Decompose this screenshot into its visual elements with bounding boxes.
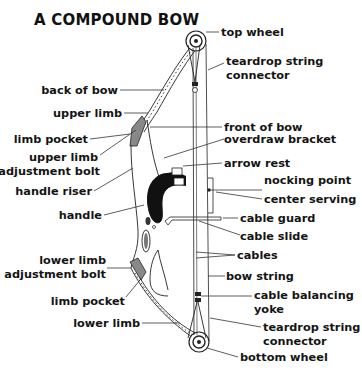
label-limb-pocket-upper: limb pocket	[14, 133, 89, 146]
lower-limb-pocket	[130, 258, 146, 280]
label-upper-bolt-2: adjustment bolt	[0, 165, 101, 178]
label-teardrop-top: teardrop string	[226, 55, 323, 68]
label-teardrop-bottom: teardrop string	[263, 321, 360, 334]
label-upper-limb: upper limb	[53, 107, 122, 120]
bow-string	[206, 44, 209, 341]
label-handle-riser: handle riser	[15, 185, 92, 198]
label-cable-guard: cable guard	[240, 212, 315, 225]
label-upper-bolt: upper limb	[29, 151, 98, 164]
label-arrow-rest: arrow rest	[224, 157, 291, 170]
cable-balancing-yoke	[195, 292, 201, 296]
label-back-of-bow: back of bow	[41, 84, 118, 97]
labels: top wheel teardrop string connector back…	[0, 26, 360, 364]
label-center-serving: center serving	[264, 193, 356, 206]
label-bow-string: bow string	[226, 270, 294, 283]
label-cable-slide: cable slide	[240, 230, 308, 243]
upper-limb-pocket	[130, 116, 146, 146]
label-handle: handle	[59, 209, 103, 222]
label-nocking-point: nocking point	[264, 174, 352, 187]
label-cables: cables	[237, 249, 278, 262]
center-serving	[208, 178, 213, 213]
label-lower-limb: lower limb	[73, 317, 140, 330]
label-top-wheel: top wheel	[221, 26, 284, 39]
compound-bow-diagram: top wheel teardrop string connector back…	[0, 0, 362, 372]
label-limb-pocket-lower: limb pocket	[51, 295, 126, 308]
label-teardrop-top-2: connector	[226, 69, 290, 82]
label-bottom-wheel: bottom wheel	[240, 351, 328, 364]
label-teardrop-bottom-2: connector	[263, 335, 327, 348]
label-cable-balancing-yoke-2: yoke	[254, 303, 284, 316]
label-lower-bolt-2: adjustment bolt	[4, 268, 106, 281]
arrow-rest-hardware	[172, 168, 182, 175]
label-overdraw-bracket: overdraw bracket	[224, 133, 337, 146]
bottom-wheel	[189, 332, 209, 352]
label-lower-bolt: lower limb	[39, 254, 106, 267]
bow-illustration	[130, 31, 221, 352]
label-cable-balancing-yoke: cable balancing	[254, 289, 354, 302]
cable-guard-rod	[165, 217, 221, 225]
